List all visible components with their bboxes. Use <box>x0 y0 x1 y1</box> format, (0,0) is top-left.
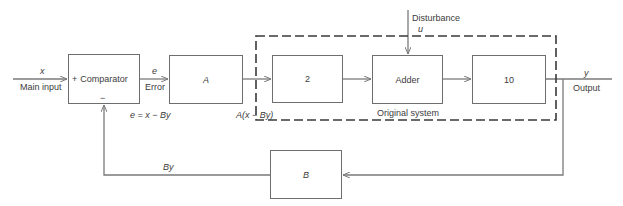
adder-block: Adder <box>372 55 443 104</box>
comparator-minus-sign: − <box>100 93 105 103</box>
original-system-label: Original system <box>377 108 439 118</box>
input-symbol: x <box>40 66 45 76</box>
feedback-label: By <box>163 162 174 172</box>
error-equation: e = x − By <box>130 110 171 120</box>
output-label: Output <box>573 83 600 93</box>
gain-10-block: 10 <box>472 55 546 104</box>
disturbance-label: Disturbance <box>412 13 460 23</box>
adder-label: Adder <box>395 75 419 85</box>
input-label: Main input <box>20 82 62 92</box>
comparator-plus-sign: + <box>72 74 77 84</box>
gain-a-block: A <box>169 55 243 104</box>
output-symbol: y <box>584 68 589 78</box>
a-output-label: A(x − By) <box>236 110 273 120</box>
comparator-label: Comparator <box>80 74 128 84</box>
gain-10-label: 10 <box>504 75 514 85</box>
gain-a-label: A <box>203 75 209 85</box>
error-label: Error <box>145 82 165 92</box>
disturbance-symbol: u <box>418 24 423 34</box>
feedback-b-block: B <box>270 150 342 199</box>
gain-2-block: 2 <box>272 55 343 103</box>
gain-2-label: 2 <box>305 74 310 84</box>
error-symbol: e <box>152 66 157 76</box>
feedback-b-label: B <box>303 170 309 180</box>
